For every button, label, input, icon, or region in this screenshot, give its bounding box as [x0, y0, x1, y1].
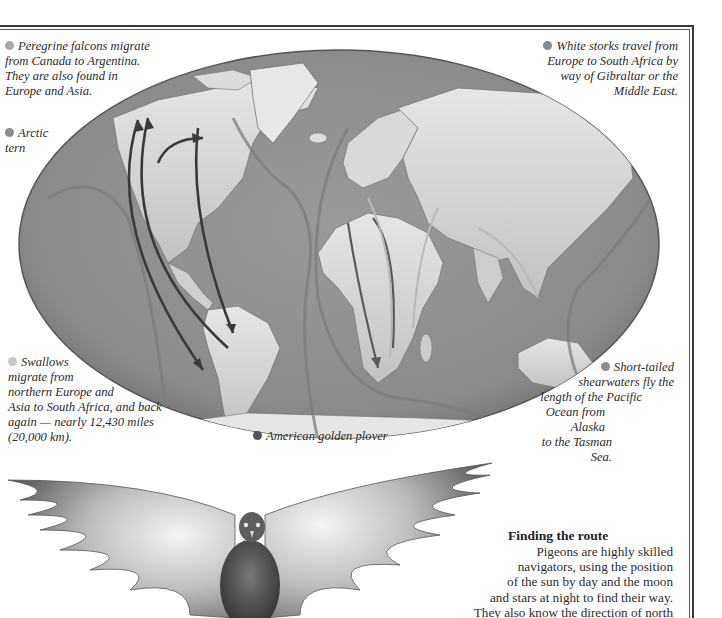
- body-text-line: Pigeons are highly skilled: [536, 544, 673, 560]
- caption-line: White storks travel from: [556, 39, 678, 53]
- caption-white-storks: White storks travel from Europe to South…: [528, 39, 678, 99]
- caption-line: (20,000 km).: [8, 430, 178, 445]
- body-text-line: They also know the direction of north: [474, 605, 673, 618]
- caption-line: tern: [5, 141, 65, 156]
- caption-line: Asia to South Africa, and back: [8, 400, 178, 415]
- body-text-line: navigators, using the position: [518, 559, 673, 575]
- caption-line: Arctic: [18, 126, 48, 140]
- body-text-line: and stars at night to find their way.: [490, 590, 673, 606]
- frame-right-line: [692, 25, 694, 618]
- caption-line: They are also found in: [5, 69, 215, 84]
- caption-line: Swallows: [21, 355, 69, 369]
- caption-line: again — nearly 12,430 miles: [8, 415, 178, 430]
- caption-line: Europe and Asia.: [5, 84, 215, 99]
- caption-line: Short-tailed: [614, 360, 674, 374]
- caption-line: to the Tasman Sea.: [520, 435, 692, 465]
- caption-line: migrate from: [8, 370, 178, 385]
- bullet-swallows-icon: [8, 357, 17, 366]
- caption-short-tailed-shearwaters: Short-tailed shearwaters fly the length …: [520, 360, 692, 465]
- bullet-shearwaters-icon: [601, 362, 610, 371]
- bullet-arctic-icon: [5, 128, 14, 137]
- bullet-plover-icon: [253, 431, 262, 440]
- caption-line: from Canada to Argentina.: [5, 54, 215, 69]
- caption-line: length of the Pacific: [520, 390, 692, 405]
- caption-american-golden-plover: American golden plover: [253, 429, 453, 444]
- caption-line: northern Europe and: [8, 385, 178, 400]
- pigeon-photo: [0, 455, 500, 618]
- caption-peregrine-falcons: Peregrine falcons migrate from Canada to…: [5, 39, 215, 99]
- bullet-storks-icon: [543, 41, 552, 50]
- caption-line: shearwaters fly the: [520, 375, 692, 390]
- caption-line: way of Gibraltar or the: [528, 69, 678, 84]
- caption-line: Peregrine falcons migrate: [18, 39, 150, 53]
- caption-line: American golden plover: [266, 429, 388, 443]
- caption-line: Middle East.: [528, 84, 678, 99]
- frame-top-inner-line: [0, 29, 690, 30]
- book-page: Peregrine falcons migrate from Canada to…: [0, 0, 722, 618]
- frame-top-line: [0, 25, 693, 27]
- caption-arctic-tern: Arctic tern: [5, 126, 65, 156]
- bullet-peregrine-icon: [5, 41, 14, 50]
- caption-line: Europe to South Africa by: [528, 54, 678, 69]
- section-title: Finding the route: [508, 528, 608, 544]
- caption-swallows: Swallows migrate from northern Europe an…: [8, 355, 178, 445]
- caption-line: Ocean from Alaska: [520, 405, 692, 435]
- frame-right-inner-line: [689, 29, 690, 618]
- body-text-line: of the sun by day and the moon: [507, 574, 673, 590]
